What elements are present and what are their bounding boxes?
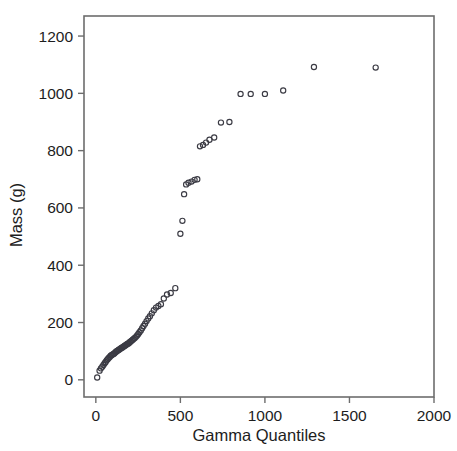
x-axis-title: Gamma Quantiles [193,426,326,444]
data-point [212,135,217,140]
data-points-layer [95,64,379,380]
y-tick-label: 1000 [39,85,74,102]
x-axis-ticks: 0500100015002000 [92,397,452,424]
y-tick-label: 200 [47,314,73,331]
y-tick-label: 600 [47,199,73,216]
data-point [227,119,232,124]
data-point [182,192,187,197]
y-axis-ticks: 020040060080010001200 [39,28,84,389]
x-tick-label: 1500 [332,407,367,424]
data-point [373,65,378,70]
y-tick-label: 400 [47,257,73,274]
data-point [95,375,100,380]
x-tick-label: 0 [92,407,101,424]
data-point [311,64,316,69]
data-point [180,218,185,223]
y-axis-title: Mass (g) [7,183,25,247]
x-tick-label: 1000 [248,407,283,424]
x-tick-label: 500 [167,407,193,424]
data-point [281,88,286,93]
y-tick-label: 1200 [39,28,74,45]
qq-plot-svg: 020040060080010001200 0500100015002000 G… [0,0,457,451]
data-point [248,91,253,96]
x-tick-label: 2000 [417,407,452,424]
data-point [262,91,267,96]
y-tick-label: 800 [47,142,73,159]
data-point [238,91,243,96]
data-point [178,231,183,236]
y-tick-label: 0 [64,371,73,388]
data-point [218,120,223,125]
data-point [173,286,178,291]
qq-plot-figure: 020040060080010001200 0500100015002000 G… [0,0,457,451]
